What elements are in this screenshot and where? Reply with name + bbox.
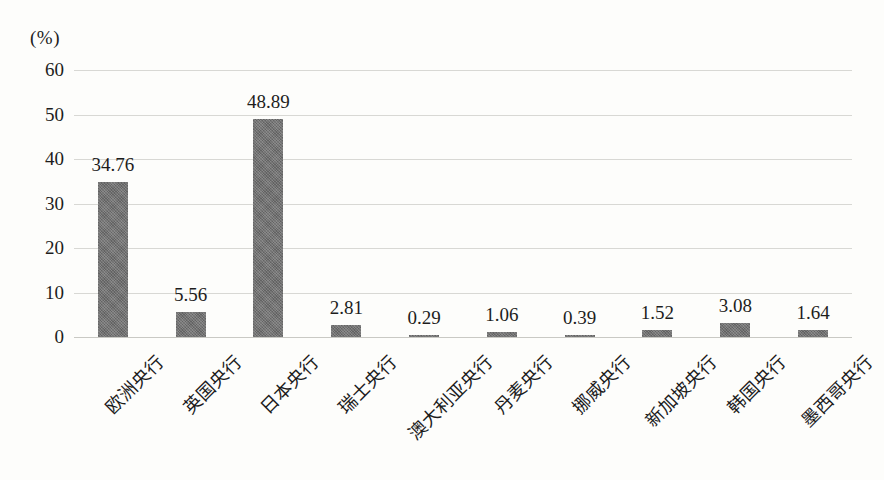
x-axis-label-slot: 英国央行 — [152, 340, 230, 475]
plot-area: 34.765.5648.892.810.291.060.391.523.081.… — [74, 70, 852, 337]
bar-value-label: 3.08 — [719, 295, 752, 317]
y-axis-tick-labels: 0102030405060 — [20, 70, 64, 337]
bar-value-label: 0.39 — [563, 307, 596, 329]
bar-group: 48.89 — [230, 70, 308, 337]
bar-value-label: 1.64 — [796, 302, 829, 324]
x-axis-label-slot: 丹麦央行 — [463, 340, 541, 475]
bar-value-label: 2.81 — [330, 297, 363, 319]
bar — [176, 312, 206, 337]
bar-group: 1.64 — [774, 70, 852, 337]
bar-value-label: 1.52 — [641, 302, 674, 324]
bar-group: 3.08 — [696, 70, 774, 337]
x-axis-label-slot: 韩国央行 — [696, 340, 774, 475]
x-axis-label-slot: 新加坡央行 — [619, 340, 697, 475]
bar-group: 2.81 — [307, 70, 385, 337]
x-axis-label-slot: 澳大利亚央行 — [385, 340, 463, 475]
bar — [487, 332, 517, 337]
bar — [642, 330, 672, 337]
bar — [98, 182, 128, 337]
x-axis-label-slot: 日本央行 — [230, 340, 308, 475]
x-axis-label-slot: 瑞士央行 — [307, 340, 385, 475]
bar-group: 1.52 — [619, 70, 697, 337]
bar-value-label: 0.29 — [407, 307, 440, 329]
y-axis-tick-label: 60 — [20, 59, 64, 81]
bar — [253, 119, 283, 337]
bar-group: 0.39 — [541, 70, 619, 337]
x-axis-category-labels: 欧洲央行英国央行日本央行瑞士央行澳大利亚央行丹麦央行挪威央行新加坡央行韩国央行墨… — [74, 340, 852, 475]
x-axis-label: 墨西哥央行 — [794, 348, 878, 432]
y-axis-tick-label: 20 — [20, 237, 64, 259]
y-axis-tick-label: 40 — [20, 148, 64, 170]
bar-value-label: 34.76 — [92, 154, 135, 176]
bar-group: 1.06 — [463, 70, 541, 337]
y-axis-tick-label: 0 — [20, 326, 64, 348]
bar-group: 0.29 — [385, 70, 463, 337]
bar-group: 34.76 — [74, 70, 152, 337]
x-axis-label-slot: 欧洲央行 — [74, 340, 152, 475]
y-axis-tick-label: 50 — [20, 104, 64, 126]
bar-value-label: 5.56 — [174, 284, 207, 306]
y-axis-tick-label: 10 — [20, 282, 64, 304]
bar — [720, 323, 750, 337]
bar — [798, 330, 828, 337]
bar — [565, 335, 595, 337]
bar — [409, 335, 439, 337]
bar-value-label: 1.06 — [485, 304, 518, 326]
gridline — [74, 337, 852, 338]
y-axis-tick-label: 30 — [20, 193, 64, 215]
y-axis-unit-label: (%) — [30, 27, 60, 49]
x-axis-label-slot: 墨西哥央行 — [774, 340, 852, 475]
bar-chart: (%) 0102030405060 34.765.5648.892.810.29… — [0, 0, 884, 480]
bar — [331, 325, 361, 338]
x-axis-label-slot: 挪威央行 — [541, 340, 619, 475]
bar-value-label: 48.89 — [247, 91, 290, 113]
bar-group: 5.56 — [152, 70, 230, 337]
